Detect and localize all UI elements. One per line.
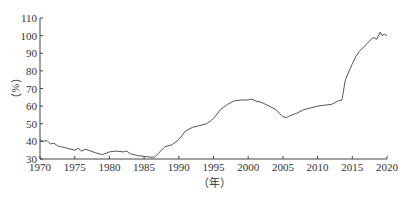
- x-tick-label: 1975: [64, 161, 87, 173]
- x-tick-label: 1990: [168, 161, 191, 173]
- x-tick-label: 2015: [341, 161, 364, 173]
- series-line: [40, 32, 387, 157]
- y-tick-label: 80: [26, 65, 38, 77]
- x-tick-label: 2020: [376, 161, 399, 173]
- y-tick-label: 70: [26, 83, 38, 95]
- y-tick-label: 60: [26, 100, 38, 112]
- x-tick-label: 1985: [133, 161, 156, 173]
- y-tick-label: 50: [26, 118, 38, 130]
- y-tick-label: 100: [21, 30, 38, 42]
- y-tick-label: 90: [26, 47, 38, 59]
- x-tick-label: 2000: [237, 161, 260, 173]
- x-tick-label: 2005: [272, 161, 295, 173]
- y-axis: 30405060708090100110: [21, 12, 44, 165]
- plot-area: [40, 32, 387, 157]
- y-tick-label: 110: [21, 12, 38, 24]
- x-axis-title: （年）: [198, 176, 231, 189]
- x-tick-label: 1995: [203, 161, 226, 173]
- x-tick-label: 1970: [29, 161, 52, 173]
- x-axis: 1970197519801985199019952000200520102015…: [29, 156, 399, 173]
- y-tick-label: 40: [26, 135, 38, 147]
- x-tick-label: 2010: [307, 161, 330, 173]
- x-tick-label: 1980: [98, 161, 121, 173]
- y-axis-title: （%）: [10, 72, 22, 103]
- line-chart: 30405060708090100110 1970197519801985199…: [0, 0, 409, 201]
